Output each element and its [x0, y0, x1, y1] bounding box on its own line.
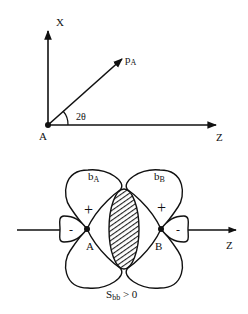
vector-label-subscript: A [131, 58, 137, 67]
nucleus-a [84, 226, 90, 232]
lobe-b-plus-sign: + [157, 199, 166, 216]
origin-point [45, 122, 51, 128]
bond-axis-z-label: Z [226, 239, 233, 251]
angle-label: 2θ [76, 111, 86, 122]
bottom-orbital-diagram: + - + - A B bA bB Z Sbb > 0 [17, 170, 236, 302]
atom-b-label: B [155, 240, 162, 252]
nucleus-b [158, 226, 164, 232]
atom-a-label: A [86, 240, 94, 252]
origin-label: A [39, 130, 47, 142]
orbital-a-small-lobe [60, 216, 87, 242]
overlap-region [109, 189, 139, 269]
lobe-b-minus-sign: - [176, 223, 180, 237]
x-axis-label: X [56, 16, 64, 28]
vector-label: pA [125, 53, 137, 67]
orbital-b-label-subscript: B [160, 175, 165, 184]
diagram-canvas: X Z A 2θ pA + - + - A B bA bB [0, 0, 248, 314]
lobe-a-minus-sign: - [69, 223, 73, 237]
orbital-b-label: bB [154, 170, 165, 184]
top-vector-diagram: X Z A 2θ pA [39, 16, 223, 143]
orbital-b-small-lobe [161, 216, 188, 242]
angle-arc [63, 111, 68, 125]
caption-subscript: bb [112, 293, 120, 302]
orbital-a-label-subscript: A [94, 175, 100, 184]
caption-rest: > 0 [120, 288, 138, 300]
orbital-a-label: bA [88, 170, 100, 184]
overlap-caption: Sbb > 0 [106, 288, 138, 302]
lobe-a-plus-sign: + [84, 201, 93, 218]
z-axis-label: Z [216, 131, 223, 143]
